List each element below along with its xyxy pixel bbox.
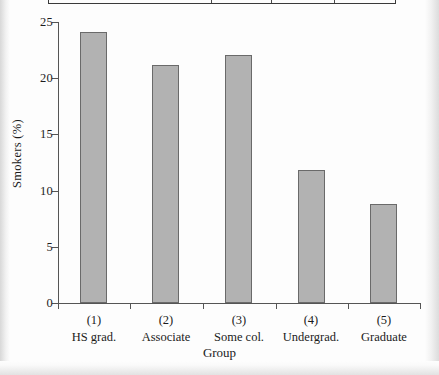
- x-label-group-5: (5) Graduate: [336, 312, 432, 347]
- y-axis-line: [58, 22, 59, 303]
- x-tick-boundary-4: [348, 303, 349, 309]
- x-tick-boundary-3: [276, 303, 277, 309]
- x-axis-line: [58, 303, 420, 304]
- bar-hs-grad: [80, 32, 107, 303]
- bar-undergrad: [298, 170, 325, 303]
- x-tick-boundary-5: [420, 303, 421, 309]
- y-tick-label-2: 10: [40, 183, 53, 198]
- x-tick-boundary-0: [58, 303, 59, 309]
- x-tick-boundary-1: [130, 303, 131, 309]
- bar-some-col: [225, 55, 252, 303]
- y-tick-label-1: 5: [47, 239, 53, 254]
- y-axis-title: Smokers (%): [10, 99, 25, 209]
- y-tick-label-0: 0: [47, 296, 53, 311]
- y-tick-label-4: 20: [40, 71, 53, 86]
- x-axis-title: Group: [0, 345, 439, 361]
- x-label-number-5: (5): [336, 312, 432, 329]
- x-tick-boundary-2: [203, 303, 204, 309]
- bar-associate: [152, 65, 179, 303]
- bar-chart: 0 5 10 15 20 25: [0, 0, 439, 375]
- y-tick-label-3: 15: [40, 127, 53, 142]
- page-canvas: 0 5 10 15 20 25: [0, 0, 439, 375]
- bar-graduate: [370, 204, 397, 303]
- x-label-name-5: Graduate: [336, 329, 432, 346]
- y-tick-label-5: 25: [40, 15, 53, 30]
